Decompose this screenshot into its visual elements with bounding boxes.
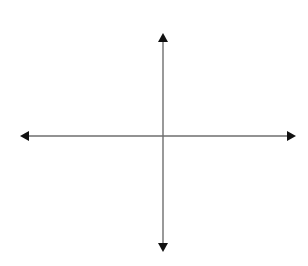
axes-diagram <box>0 0 308 266</box>
arrow-left-icon <box>20 131 29 141</box>
arrow-down-icon <box>158 243 168 252</box>
arrow-right-icon <box>287 131 296 141</box>
arrow-up-icon <box>158 33 168 42</box>
coordinate-plane <box>0 0 308 266</box>
